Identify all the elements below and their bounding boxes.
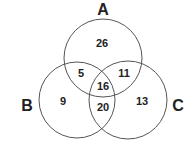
set-label-b: B bbox=[21, 97, 33, 114]
region-a-b-c: 16 bbox=[97, 80, 109, 92]
set-label-c: C bbox=[172, 97, 184, 114]
region-b-only: 9 bbox=[60, 95, 66, 107]
venn-diagram: A B C 26 9 13 5 11 20 16 bbox=[0, 0, 191, 144]
set-label-a: A bbox=[97, 1, 109, 18]
region-a-b: 5 bbox=[78, 67, 84, 79]
region-a-only: 26 bbox=[96, 37, 108, 49]
region-c-only: 13 bbox=[136, 95, 148, 107]
region-b-c: 20 bbox=[97, 101, 109, 113]
region-a-c: 11 bbox=[118, 67, 130, 79]
